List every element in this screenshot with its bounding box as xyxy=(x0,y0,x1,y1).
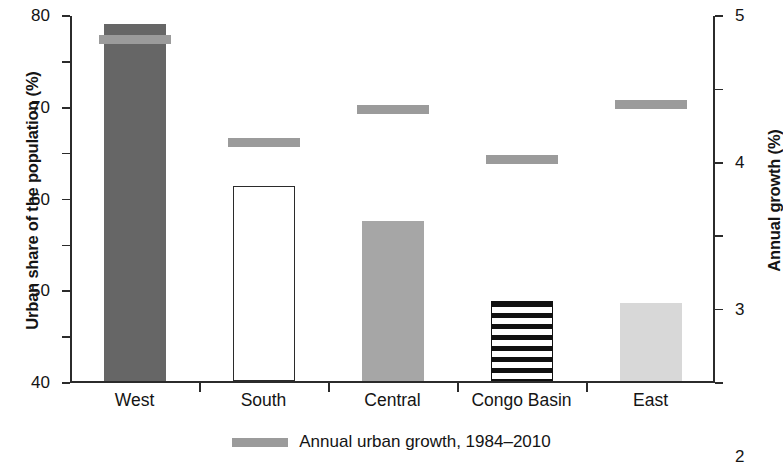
y-axis-right-tick: 0 xyxy=(715,382,723,384)
y-axis-left-tick-label: 60 xyxy=(31,190,50,207)
y-axis-right-tick: 4 xyxy=(715,89,723,91)
y-axis-left-tick-label: 80 xyxy=(31,7,50,24)
growth-marker-west xyxy=(99,35,171,44)
growth-marker-swatch xyxy=(232,438,288,447)
bar-central xyxy=(362,221,424,382)
legend-label: Annual urban growth, 1984–2010 xyxy=(299,432,550,452)
x-axis-tick xyxy=(457,383,459,392)
y-axis-right-tick-label: 5 xyxy=(735,7,744,24)
y-axis-left-tick: 80 xyxy=(62,15,70,17)
bar-east xyxy=(620,303,682,381)
chart-legend: Annual urban growth, 1984–2010 xyxy=(0,432,783,452)
x-axis-tick xyxy=(586,383,588,392)
x-axis-tick xyxy=(199,383,201,392)
y-axis-left-tick-label: 50 xyxy=(31,282,50,299)
y-axis-right-tick-label: 3 xyxy=(735,300,744,317)
growth-marker-east xyxy=(615,100,687,109)
y-axis-right-tick: 2 xyxy=(715,235,723,237)
y-axis-left-tick: 10 xyxy=(62,336,70,338)
chart-figure: Urban share of the population (%) Annual… xyxy=(0,0,783,462)
y-axis-left-line xyxy=(70,16,72,383)
y-axis-right-tick: 5 xyxy=(715,15,723,17)
y-axis-left-tick-label: 70 xyxy=(31,98,50,115)
y-axis-right-tick-label: 4 xyxy=(735,153,744,170)
bar-congo-basin xyxy=(491,301,553,381)
x-axis-tick xyxy=(328,383,330,392)
bar-south xyxy=(233,186,295,381)
y-axis-right-tick: 1 xyxy=(715,309,723,311)
growth-marker-congo-basin xyxy=(486,155,558,164)
y-axis-left-tick-label: 40 xyxy=(31,374,50,391)
x-label-west: West xyxy=(70,392,199,410)
plot-area: 01020304050607080 012345 xyxy=(70,16,715,383)
x-label-central: Central xyxy=(328,392,457,410)
y-axis-left-tick: 30 xyxy=(62,245,70,247)
y-axis-left-tick: 50 xyxy=(62,153,70,155)
y-axis-right-tick: 3 xyxy=(715,162,723,164)
growth-marker-central xyxy=(357,105,429,114)
x-label-south: South xyxy=(199,392,328,410)
y-axis-left-tick: 20 xyxy=(62,290,70,292)
growth-marker-south xyxy=(228,138,300,147)
x-label-east: East xyxy=(586,392,715,410)
y-axis-right-line xyxy=(713,16,715,383)
y-axis-left-tick: 60 xyxy=(62,107,70,109)
y-axis-left-tick: 40 xyxy=(62,199,70,201)
y-axis-left-tick: 0 xyxy=(62,382,70,384)
x-label-congo-basin: Congo Basin xyxy=(457,392,586,410)
x-axis-line xyxy=(70,381,715,383)
y-axis-left-tick: 70 xyxy=(62,61,70,63)
y-axis-right-title: Annual growth (%) xyxy=(765,21,783,381)
bar-west xyxy=(104,24,166,382)
